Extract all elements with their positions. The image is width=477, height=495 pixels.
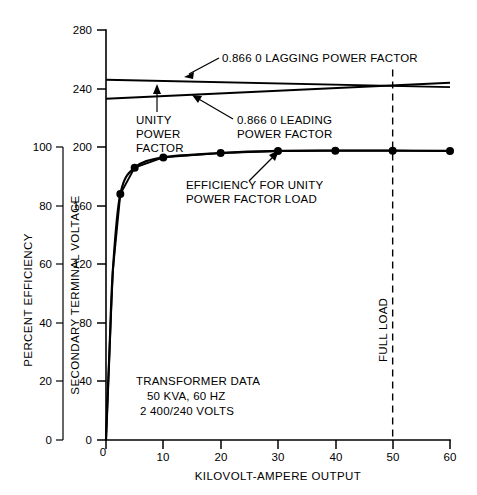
transformer-data-line1: TRANSFORMER DATA (136, 375, 260, 387)
efficiency-tick-60: 60 (39, 258, 52, 270)
efficiency-axis: 0 20 40 60 80 100 PERCENT EFFICIENCY (22, 141, 63, 446)
full-load-reference: FULL LOAD (377, 70, 393, 440)
annotation-efficiency: EFFICIENCY FOR UNITY POWER FACTOR LOAD (186, 150, 323, 205)
annotation-unity-line1: UNITY (136, 114, 172, 126)
x-tick-20: 20 (215, 451, 228, 463)
transformer-data-line2: 50 KVA, 60 HZ (147, 390, 225, 402)
x-tick-50: 50 (387, 451, 400, 463)
x-axis-title: KILOVOLT-AMPERE OUTPUT (195, 470, 361, 482)
annotation-leading-line1: 0.866 0 LEADING (237, 114, 332, 126)
data-point-marker (217, 149, 225, 157)
annotation-lagging-text: 0.866 0 LAGGING POWER FACTOR (222, 52, 418, 64)
annotation-lagging: 0.866 0 LAGGING POWER FACTOR (184, 52, 418, 79)
efficiency-tick-0: 0 (46, 434, 52, 446)
voltage-tick-280: 280 (73, 24, 92, 36)
annotation-leading-line2: POWER FACTOR (237, 128, 332, 140)
data-point-marker (446, 147, 454, 155)
efficiency-tick-40: 40 (39, 317, 52, 329)
efficiency-axis-ticks (56, 147, 63, 440)
data-point-marker (159, 153, 167, 161)
voltage-axis-ticks (97, 30, 106, 440)
arrowhead-leading (192, 95, 202, 103)
voltage-tick-40: 40 (79, 375, 92, 387)
annotation-efficiency-line1: EFFICIENCY FOR UNITY (186, 179, 323, 191)
voltage-tick-0: 0 (86, 434, 92, 446)
annotation-unity: UNITY POWER FACTOR (136, 84, 184, 154)
chart-svg: 0 40 80 120 160 200 240 280 SECONDARY TE… (0, 0, 477, 495)
voltage-axis: 0 40 80 120 160 200 240 280 SECONDARY TE… (69, 24, 106, 446)
efficiency-axis-title: PERCENT EFFICIENCY (22, 233, 34, 367)
voltage-tick-240: 240 (73, 83, 92, 95)
efficiency-tick-20: 20 (39, 375, 52, 387)
data-point-marker (331, 147, 339, 155)
voltage-tick-200: 200 (73, 141, 92, 153)
voltage-axis-title: SECONDARY TERMINAL VOLTAGE (69, 195, 81, 394)
x-tick-30: 30 (272, 451, 285, 463)
annotation-unity-line2: POWER (136, 128, 180, 140)
x-tick-40: 40 (330, 451, 343, 463)
voltage-tick-80: 80 (79, 317, 92, 329)
x-tick-0: 0 (100, 446, 106, 458)
data-point-marker (131, 164, 139, 172)
annotation-efficiency-line2: POWER FACTOR LOAD (186, 193, 317, 205)
efficiency-tick-80: 80 (39, 200, 52, 212)
annotation-unity-line3: FACTOR (136, 142, 184, 154)
efficiency-tick-100: 100 (33, 141, 52, 153)
arrowhead-unity (153, 84, 161, 94)
transformer-performance-figure: 0 40 80 120 160 200 240 280 SECONDARY TE… (0, 0, 477, 495)
x-axis: 0 10 20 30 40 50 60 KILOVOLT-AMPERE OUTP… (100, 440, 457, 482)
transformer-data-block: TRANSFORMER DATA 50 KVA, 60 HZ 2 400/240… (136, 375, 260, 417)
arrowhead-lagging (184, 72, 194, 79)
x-tick-10: 10 (157, 451, 170, 463)
full-load-label: FULL LOAD (377, 298, 389, 362)
x-axis-ticks (106, 440, 450, 449)
x-tick-60: 60 (444, 451, 457, 463)
transformer-data-line3: 2 400/240 VOLTS (140, 405, 234, 417)
data-point-marker (116, 190, 124, 198)
annotation-leading: 0.866 0 LEADING POWER FACTOR (192, 95, 332, 140)
